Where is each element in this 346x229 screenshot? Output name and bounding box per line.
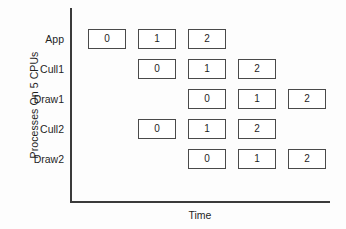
x-axis-line (70, 201, 330, 203)
process-box: 1 (238, 89, 276, 109)
process-box: 0 (188, 149, 226, 169)
process-box: 1 (138, 29, 176, 49)
process-box: 0 (188, 89, 226, 109)
process-box: 2 (288, 89, 326, 109)
process-box: 0 (88, 29, 126, 49)
row-label-draw2: Draw2 (0, 153, 64, 165)
y-axis-line (70, 8, 72, 203)
row-label-cull2: Cull2 (0, 123, 64, 135)
process-box: 2 (288, 149, 326, 169)
process-box: 2 (238, 119, 276, 139)
pipeline-timing-diagram: Processes On 5 CPUs Time App012Cull1012D… (0, 0, 346, 229)
process-box: 2 (238, 59, 276, 79)
process-box: 0 (138, 119, 176, 139)
process-box: 1 (188, 119, 226, 139)
process-box: 2 (188, 29, 226, 49)
process-box: 1 (238, 149, 276, 169)
x-axis-title: Time (70, 209, 330, 221)
row-label-app: App (0, 33, 64, 45)
row-label-draw1: Draw1 (0, 93, 64, 105)
row-label-cull1: Cull1 (0, 63, 64, 75)
process-box: 0 (138, 59, 176, 79)
process-box: 1 (188, 59, 226, 79)
